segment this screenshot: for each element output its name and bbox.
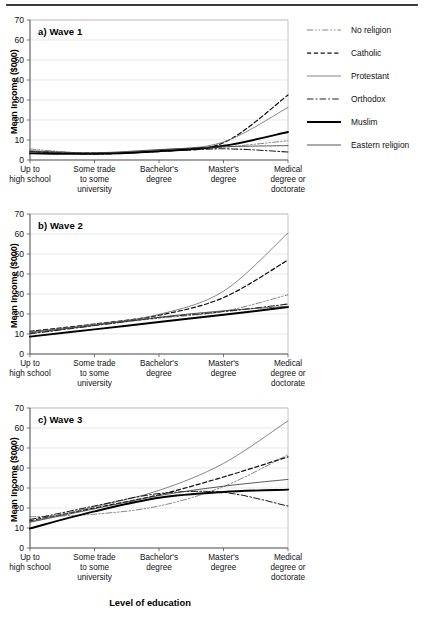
y-tick-label: 0: [6, 349, 24, 359]
x-tick-label: Some trade to some university: [64, 359, 126, 390]
x-tick-label: Medical degree or doctorate: [257, 553, 319, 584]
legend: No religionCatholicProtestantOrthodoxMus…: [306, 18, 424, 156]
y-axis-title: Mean Income ($000): [9, 243, 19, 328]
legend-item[interactable]: Eastern religion: [306, 133, 424, 156]
legend-item-label: No religion: [351, 25, 391, 35]
x-tick-label: Master's degree: [193, 165, 255, 185]
x-tick-label: Up to high school: [0, 359, 61, 379]
y-axis-title: Mean Income ($000): [9, 49, 19, 134]
y-tick-label: 0: [6, 155, 24, 165]
legend-item[interactable]: Protestant: [306, 64, 424, 87]
series-line: [30, 95, 288, 153]
x-tick-label: Bachelor's degree: [128, 359, 190, 379]
legend-item[interactable]: Orthodox: [306, 87, 424, 110]
series-line: [30, 132, 288, 154]
figure-three-wave-income-by-education: a) Wave 1 010203040506070Mean Income ($0…: [0, 0, 424, 623]
legend-item-label: Eastern religion: [351, 140, 409, 150]
y-tick-label: 0: [6, 543, 24, 553]
y-tick-label: 10: [6, 523, 24, 533]
x-tick-label: Master's degree: [193, 359, 255, 379]
chart-panel-wave-3: c) Wave 3 010203040506070Mean Income ($0…: [0, 402, 300, 584]
legend-line-sample: [306, 47, 342, 59]
y-tick-label: 60: [6, 423, 24, 433]
legend-line-sample: [306, 24, 342, 36]
legend-item-label: Protestant: [351, 71, 389, 81]
legend-item-label: Muslim: [351, 117, 378, 127]
legend-item[interactable]: Catholic: [306, 41, 424, 64]
legend-line-sample: [306, 139, 342, 151]
x-tick-label: Bachelor's degree: [128, 553, 190, 573]
x-tick-label: Medical degree or doctorate: [257, 359, 319, 390]
legend-item-label: Orthodox: [351, 94, 385, 104]
chart-panel-wave-1: a) Wave 1 010203040506070Mean Income ($0…: [0, 14, 300, 196]
chart-panel-wave-2: b) Wave 2 010203040506070Mean Income ($0…: [0, 208, 300, 390]
legend-line-sample: [306, 116, 342, 128]
series-line: [30, 421, 288, 522]
x-axis-title: Level of education: [0, 598, 300, 608]
plot-frame: [30, 20, 288, 160]
series-line: [30, 307, 288, 337]
y-tick-label: 10: [6, 135, 24, 145]
legend-item-label: Catholic: [351, 48, 381, 58]
series-line: [30, 304, 288, 334]
x-tick-label: Up to high school: [0, 165, 61, 185]
legend-item[interactable]: Muslim: [306, 110, 424, 133]
plot-frame: [30, 408, 288, 548]
y-tick-label: 60: [6, 35, 24, 45]
y-axis-title: Mean Income ($000): [9, 437, 19, 522]
y-tick-label: 70: [6, 15, 24, 25]
top-horizontal-rule: [6, 4, 418, 6]
legend-line-sample: [306, 93, 342, 105]
series-line: [30, 455, 288, 517]
x-tick-label: Some trade to some university: [64, 165, 126, 196]
x-tick-label: Medical degree or doctorate: [257, 165, 319, 196]
legend-item[interactable]: No religion: [306, 18, 424, 41]
y-tick-label: 70: [6, 403, 24, 413]
y-tick-label: 60: [6, 229, 24, 239]
legend-line-sample: [306, 70, 342, 82]
y-tick-label: 70: [6, 209, 24, 219]
x-tick-label: Master's degree: [193, 553, 255, 573]
y-tick-label: 10: [6, 329, 24, 339]
x-tick-label: Bachelor's degree: [128, 165, 190, 185]
x-tick-label: Up to high school: [0, 553, 61, 573]
x-tick-label: Some trade to some university: [64, 553, 126, 584]
